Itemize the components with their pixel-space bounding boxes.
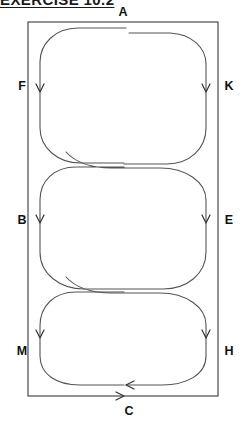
figure-page: EXERCISE 10.2 A F K B E M H C [0,0,250,427]
top-loop-right-arc [124,33,206,164]
vertex-label-C: C [124,404,133,418]
middle-loop-arc [40,152,206,289]
bottom-loop-left-arc [40,292,124,385]
vertex-label-E: E [225,213,233,227]
vertex-label-H: H [224,344,233,358]
vertex-label-A: A [118,5,127,19]
diagram-border [28,22,218,396]
top-loop-left-arc [40,28,126,163]
vertex-label-F: F [18,79,26,93]
vertex-label-B: B [17,213,26,227]
bottom-loop-arc [66,277,206,385]
vertex-label-M: M [17,344,27,358]
vertex-label-K: K [224,79,233,93]
loop-diagram: A F K B E M H C [0,0,250,427]
